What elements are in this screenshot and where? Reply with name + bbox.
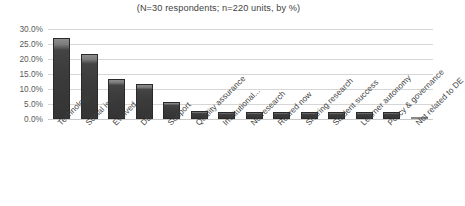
y-tick-label: 20.0% <box>19 54 43 64</box>
chart-title: (N=30 respondents; n=220 units, by %) <box>0 3 437 13</box>
y-tick-label: 15.0% <box>19 69 43 79</box>
y-tick-label: 0.0% <box>24 114 43 124</box>
y-axis: 30.0%25.0%20.0%15.0%10.0%5.0%0.0% <box>0 0 46 206</box>
bar <box>136 84 153 119</box>
x-axis: TechnologySocial issuesEvolvedDESupportQ… <box>48 121 437 206</box>
y-tick-label: 5.0% <box>24 99 43 109</box>
y-tick-label: 25.0% <box>19 39 43 49</box>
y-tick-label: 10.0% <box>19 84 43 94</box>
bar <box>53 38 70 119</box>
axis-baseline <box>48 119 433 120</box>
y-tick-label: 30.0% <box>19 24 43 34</box>
